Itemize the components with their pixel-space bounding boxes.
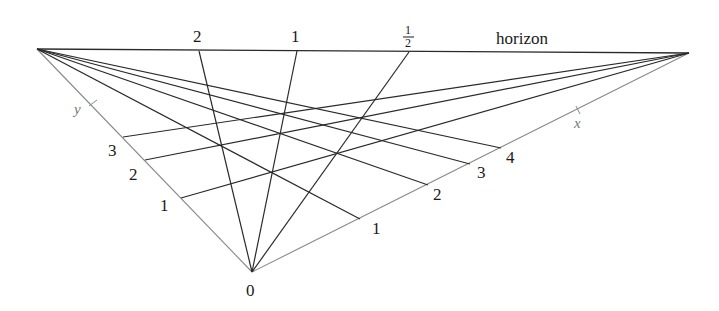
horizon-label: horizon bbox=[496, 29, 548, 48]
x-tick-label-4: 4 bbox=[506, 148, 515, 167]
svg-text:1: 1 bbox=[405, 23, 411, 37]
y-tick-label-2: 2 bbox=[129, 165, 138, 184]
y-tick-label-1: 1 bbox=[160, 196, 169, 215]
y-axis bbox=[37, 49, 252, 272]
diagram-svg: 2 1 1 2 horizon y x 3 2 1 1 2 3 4 0 bbox=[0, 0, 719, 311]
y-line-2 bbox=[145, 53, 689, 160]
y-tick-label-3: 3 bbox=[108, 141, 117, 160]
ray-to-horizon-2 bbox=[199, 51, 252, 272]
x-tick-label-1: 1 bbox=[372, 219, 381, 238]
horizon-point-label-2: 2 bbox=[193, 27, 202, 46]
horizon-point-label-half: 1 2 bbox=[403, 23, 414, 50]
horizon-line bbox=[37, 49, 689, 53]
x-line-2 bbox=[37, 49, 428, 185]
perspective-diagram: 2 1 1 2 horizon y x 3 2 1 1 2 3 4 0 bbox=[0, 0, 719, 311]
ray-to-horizon-half bbox=[252, 52, 409, 272]
x-line-4 bbox=[37, 49, 501, 148]
x-line-3 bbox=[37, 49, 470, 164]
x-tick-label-3: 3 bbox=[477, 163, 486, 182]
y-axis-tick bbox=[89, 100, 97, 106]
horizon-point-label-1: 1 bbox=[291, 27, 300, 46]
svg-text:2: 2 bbox=[405, 36, 411, 50]
x-axis-label: x bbox=[573, 115, 581, 131]
x-axis-tick bbox=[576, 106, 580, 114]
x-tick-label-2: 2 bbox=[433, 185, 442, 204]
origin-label: 0 bbox=[246, 281, 255, 300]
y-axis-label: y bbox=[72, 101, 81, 117]
ray-to-horizon-1 bbox=[252, 51, 297, 272]
